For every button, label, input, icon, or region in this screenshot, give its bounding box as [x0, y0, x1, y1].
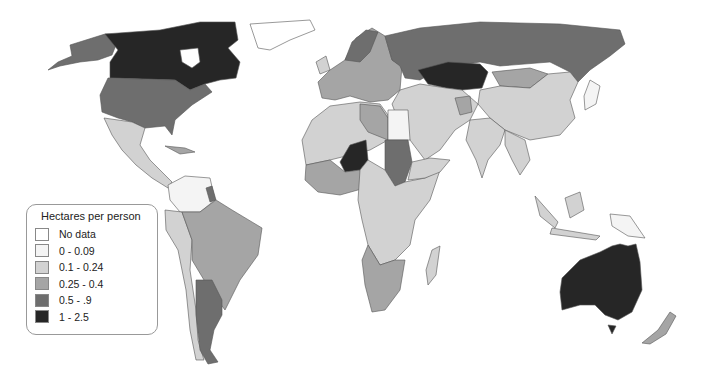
legend-swatch	[35, 228, 49, 241]
region-india[interactable]	[466, 118, 505, 178]
region-mexico[interactable]	[104, 118, 172, 188]
legend-label: 0.1 - 0.24	[59, 261, 103, 273]
region-egypt[interactable]	[388, 110, 410, 140]
legend-swatch	[35, 244, 49, 257]
region-indonesia[interactable]	[535, 192, 600, 240]
legend-swatch	[35, 310, 49, 323]
legend-swatch	[35, 261, 49, 274]
legend-swatch	[35, 294, 49, 307]
legend-label: 1 - 2.5	[59, 311, 89, 323]
legend-label: No data	[59, 228, 96, 240]
map-legend: Hectares per person No data 0 - 0.09 0.1…	[26, 204, 158, 335]
region-papua[interactable]	[610, 214, 645, 238]
region-greenland[interactable]	[250, 20, 315, 50]
legend-item-1-2.5: 1 - 2.5	[35, 309, 157, 326]
legend-item-0.1-0.24: 0.1 - 0.24	[35, 259, 157, 276]
region-new-zealand[interactable]	[642, 312, 676, 344]
legend-title: Hectares per person	[41, 210, 157, 222]
region-horn-of-africa[interactable]	[408, 158, 450, 180]
region-caribbean[interactable]	[165, 146, 195, 154]
legend-item-0.5-0.9: 0.5 - .9	[35, 292, 157, 309]
region-uk[interactable]	[316, 56, 330, 74]
legend-item-0-0.09: 0 - 0.09	[35, 243, 157, 260]
legend-swatch	[35, 277, 49, 290]
legend-item-no-data: No data	[35, 226, 157, 243]
legend-label: 0 - 0.09	[59, 245, 95, 257]
legend-item-0.25-0.4: 0.25 - 0.4	[35, 276, 157, 293]
legend-label: 0.25 - 0.4	[59, 278, 103, 290]
region-brazil[interactable]	[182, 200, 262, 310]
region-tasmania[interactable]	[608, 325, 616, 334]
region-australia[interactable]	[560, 244, 642, 320]
legend-label: 0.5 - .9	[59, 294, 92, 306]
region-japan[interactable]	[584, 80, 600, 110]
region-madagascar[interactable]	[426, 246, 440, 285]
